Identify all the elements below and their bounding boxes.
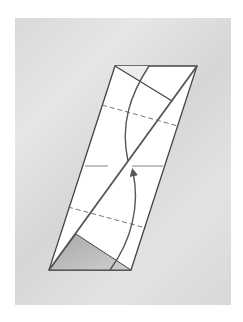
origami-diagram [0, 0, 243, 322]
